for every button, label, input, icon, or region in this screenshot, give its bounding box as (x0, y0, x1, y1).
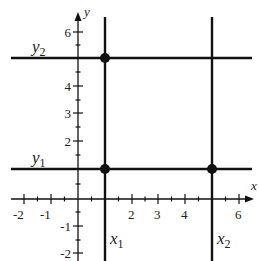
svg-text:6: 6 (65, 25, 72, 40)
label-x2: x2 (216, 229, 231, 251)
svg-text:-2: -2 (60, 246, 71, 261)
label-y2: y2 (30, 37, 46, 59)
svg-text:3: 3 (65, 106, 72, 121)
y-axis (73, 12, 83, 261)
svg-text:2: 2 (65, 134, 72, 149)
x-axis-arrow-icon (245, 196, 254, 203)
svg-text:-2: -2 (13, 207, 24, 222)
horizontal-lines (11, 58, 252, 169)
svg-text:-1: -1 (40, 207, 51, 222)
label-x1: x1 (109, 229, 124, 251)
coordinate-diagram: x y -2 -1 2 3 4 6 6 4 3 2 -1 -2 y2 y1 x1… (0, 0, 259, 261)
svg-text:4: 4 (65, 79, 72, 94)
point-x1-y1 (100, 164, 110, 174)
svg-text:-1: -1 (60, 219, 71, 234)
svg-text:3: 3 (154, 207, 161, 222)
point-x2-y1 (207, 164, 217, 174)
x-axis-label: x (250, 178, 257, 193)
intersection-points (100, 53, 217, 174)
x-axis (11, 194, 254, 204)
label-y1: y1 (30, 148, 46, 170)
svg-text:6: 6 (235, 207, 242, 222)
y-axis-arrow-icon (75, 12, 82, 21)
y-axis-label: y (82, 4, 90, 19)
x-tick-labels: -2 -1 2 3 4 6 (13, 207, 242, 222)
point-x1-y2 (100, 53, 110, 63)
svg-text:2: 2 (128, 207, 135, 222)
svg-text:4: 4 (181, 207, 188, 222)
y-tick-labels: 6 4 3 2 -1 -2 (60, 25, 71, 261)
vertical-lines (105, 17, 212, 261)
